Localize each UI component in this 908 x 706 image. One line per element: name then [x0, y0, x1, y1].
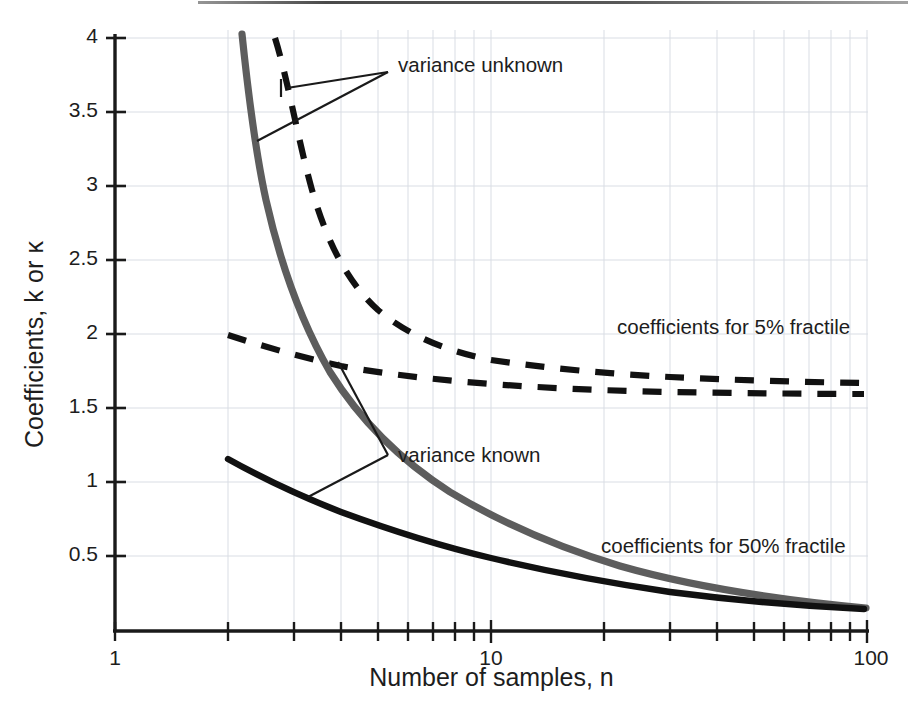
y-tick-label-3.5: 3.5: [28, 98, 98, 122]
x-axis-ticks: [115, 620, 867, 643]
chart-figure: variance unknown variance known coeffici…: [0, 0, 908, 706]
x-axis-title: Number of samples, n: [115, 663, 868, 692]
y-tick-label-4: 4: [28, 24, 98, 48]
annotation-5pct-fractile: coefficients for 5% fractile: [617, 315, 850, 338]
annotation-variance-known: variance known: [398, 443, 540, 466]
leader-lines-variance-unknown: [257, 72, 388, 141]
y-axis-title: Coefficients, k or κ: [20, 135, 49, 555]
annotation-variance-unknown: variance unknown: [398, 53, 563, 76]
annotation-50pct-fractile: coefficients for 50% fractile: [601, 534, 846, 557]
